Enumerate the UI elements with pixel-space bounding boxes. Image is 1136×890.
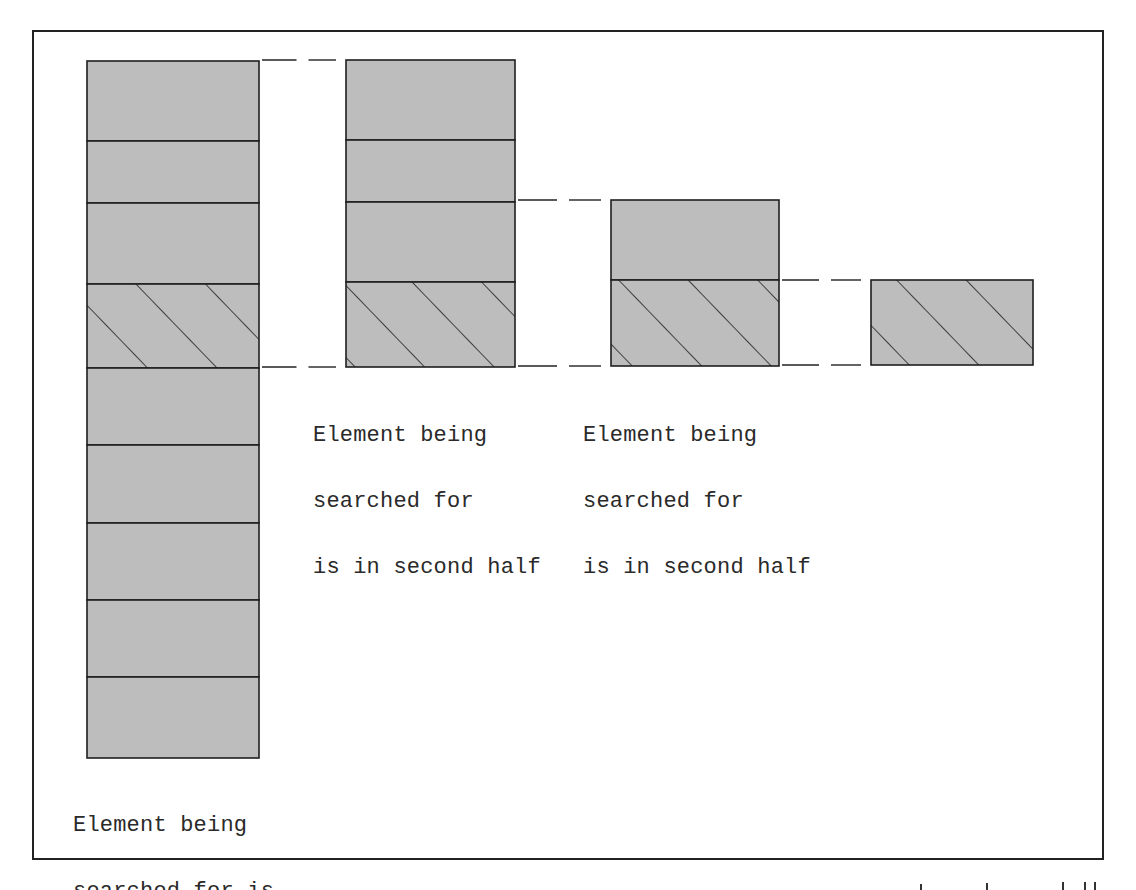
caption-line: searched for is	[73, 881, 274, 890]
caption-line: is in second half	[583, 557, 811, 579]
caption-line: is in second half	[313, 557, 541, 579]
caption-line: searched for	[313, 491, 541, 513]
caption-line: Element being	[313, 425, 541, 447]
stage-3-caption: Element being searched for is in second …	[583, 381, 811, 623]
array-element-cell	[87, 368, 259, 445]
array-element-cell	[346, 202, 515, 282]
array-element-cell	[87, 600, 259, 677]
caption-line: Element being	[583, 425, 811, 447]
target-element-cell	[611, 280, 779, 366]
array-element-cell	[346, 140, 515, 202]
target-element-cell	[346, 282, 515, 367]
target-element-cell	[871, 280, 1033, 365]
array-element-cell	[87, 203, 259, 284]
array-element-cell	[346, 60, 515, 140]
array-element-cell	[87, 677, 259, 758]
array-element-cell	[87, 141, 259, 203]
array-element-cell	[87, 523, 259, 600]
array-element-cell	[611, 200, 779, 280]
stage-1-caption: Element being searched for is in first h…	[73, 771, 274, 890]
stage-3-column	[611, 200, 779, 366]
caption-line: Element being	[73, 815, 274, 837]
stage-2-caption: Element being searched for is in second …	[313, 381, 541, 623]
array-element-cell	[87, 61, 259, 141]
array-element-cell	[87, 445, 259, 523]
target-element-cell	[87, 284, 259, 368]
stage-1-column	[87, 61, 259, 758]
caption-line: searched for	[583, 491, 811, 513]
binary-search-diagram: Element being searched for is in first h…	[0, 0, 1136, 890]
diagram-canvas	[0, 0, 1136, 890]
cut-off-caption-below	[920, 882, 1096, 890]
stage-4-column	[871, 280, 1033, 365]
stage-2-column	[346, 60, 515, 367]
